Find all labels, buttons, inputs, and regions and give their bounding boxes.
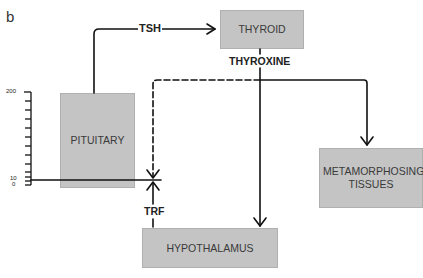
feedback-dashed-line bbox=[153, 80, 260, 177]
scale-label-0: 0 bbox=[12, 181, 15, 187]
tsh-arrow bbox=[94, 29, 215, 93]
arrows-overlay bbox=[0, 0, 423, 278]
trf-label: TRF bbox=[143, 205, 165, 217]
scale-label-200: 200 bbox=[6, 88, 16, 94]
thyroxine-label: THYROXINE bbox=[228, 55, 291, 67]
tsh-label: TSH bbox=[138, 22, 162, 34]
thyroxine-to-tissues-arrow bbox=[260, 80, 367, 145]
